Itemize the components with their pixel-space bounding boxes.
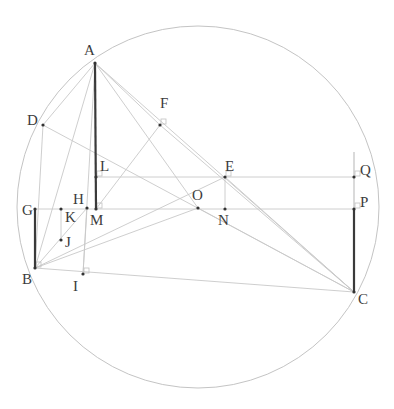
point-q [352,175,355,178]
label-k: K [65,209,76,225]
segment-ao [95,63,198,208]
label-o: O [192,187,203,203]
label-n: N [218,212,229,228]
geometry-diagram: ABCDEFGHIJKLMNOPQ [0,0,394,409]
point-b [33,266,36,269]
point-d [41,123,44,126]
label-i: I [73,278,78,294]
point-p [352,207,355,210]
segment-bo [35,208,198,268]
segment-hi [83,208,87,274]
segment-af [95,63,160,125]
label-a: A [84,42,95,58]
label-d: D [27,112,38,128]
label-l: L [100,158,109,174]
point-a [93,61,96,64]
point-e [223,175,226,178]
point-g [33,207,36,210]
points [33,61,355,293]
thick-segment-am [95,63,96,209]
point-l [94,175,97,178]
construction-lines [35,63,354,292]
label-j: J [65,234,71,250]
segment-fc [160,125,354,292]
label-e: E [225,158,234,174]
label-m: M [90,212,103,228]
label-p: P [360,194,368,210]
emphasized-segments [35,63,354,292]
point-labels: ABCDEFGHIJKLMNOPQ [22,42,371,307]
label-g: G [22,202,33,218]
segment-bd [35,125,43,268]
point-o [196,206,199,209]
label-b: B [22,271,32,287]
point-c [352,290,355,293]
point-m [94,207,97,210]
point-n [223,207,226,210]
point-i [81,272,84,275]
label-q: Q [360,162,371,178]
segment-ad [43,63,95,125]
point-f [158,123,161,126]
point-k [59,207,62,210]
point-j [59,238,62,241]
label-h: H [73,191,84,207]
label-c: C [358,291,368,307]
point-h [85,206,88,209]
label-f: F [160,95,168,111]
